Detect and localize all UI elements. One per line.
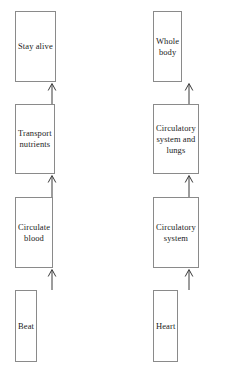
flowchart-node-transport-nutrients[interactable]: Transport nutrients: [15, 104, 55, 174]
flowchart-node-stay-alive[interactable]: Stay alive: [15, 11, 56, 82]
flowchart-node-beat[interactable]: Beat: [15, 290, 37, 362]
flowchart-column-function-chain: Stay alive Transport nutrients Circulate…: [15, 0, 89, 373]
flowchart-diagram: Stay alive Transport nutrients Circulate…: [0, 0, 240, 373]
flowchart-node-heart[interactable]: Heart: [153, 290, 178, 362]
flowchart-node-circulatory-system[interactable]: Circulatory system: [153, 197, 199, 268]
flowchart-node-label: Circulatory system: [154, 222, 198, 244]
flowchart-node-label: Transport nutrients: [16, 128, 54, 150]
arrow-up-icon: [182, 268, 196, 290]
flowchart-node-circulatory-system-and-lungs[interactable]: Circulatory system and lungs: [153, 104, 199, 174]
flowchart-node-label: Heart: [154, 321, 177, 332]
flowchart-node-label: Circulate blood: [16, 222, 52, 244]
arrow-up-icon: [45, 174, 59, 197]
flowchart-node-label: Circulatory system and lungs: [154, 123, 198, 156]
arrow-up-icon: [45, 268, 59, 290]
flowchart-node-circulate-blood[interactable]: Circulate blood: [15, 197, 53, 268]
arrow-up-icon: [45, 82, 59, 104]
flowchart-node-label: Whole body: [154, 36, 181, 58]
flowchart-column-structure-chain: Whole body Circulatory system and lungs …: [153, 0, 224, 373]
arrow-up-icon: [182, 174, 196, 197]
flowchart-node-label: Stay alive: [16, 41, 55, 52]
flowchart-node-whole-body[interactable]: Whole body: [153, 11, 182, 82]
arrow-up-icon: [182, 82, 196, 104]
flowchart-node-label: Beat: [16, 321, 36, 332]
